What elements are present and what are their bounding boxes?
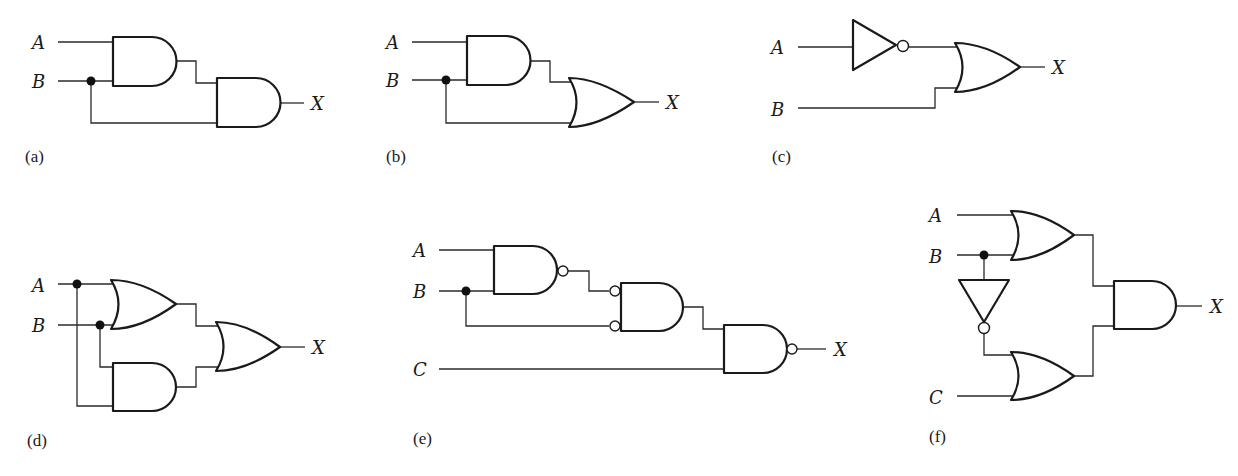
junction-dot (462, 287, 471, 296)
circuit-c (798, 20, 1045, 108)
or-gate (111, 280, 176, 329)
not-gate (959, 280, 1009, 322)
caption-d: (d) (27, 432, 47, 449)
input-label-c: C (413, 361, 427, 379)
input-label-b: B (32, 73, 45, 91)
logic-circuits-figure: A B X (a) A B X (b) A B X (c) A B X (d) … (0, 0, 1238, 476)
or-gate (569, 78, 634, 127)
circuit-e (439, 246, 826, 373)
junction-dot (73, 280, 82, 289)
or-gate (1011, 211, 1074, 260)
junction-dot (87, 77, 96, 86)
or-gate (1011, 352, 1074, 400)
inversion-bubble (558, 266, 568, 276)
output-label-x: X (666, 94, 679, 112)
circuit-b (412, 36, 659, 127)
input-label-a: A (386, 34, 399, 52)
junction-dot (96, 321, 105, 330)
input-label-b: B (32, 317, 45, 335)
output-label-x: X (834, 341, 847, 359)
and-gate (113, 37, 177, 86)
inversion-bubble (979, 323, 990, 334)
input-label-a: A (771, 39, 784, 57)
input-label-a: A (413, 242, 426, 260)
caption-c: (c) (772, 148, 791, 165)
and-gate (467, 36, 531, 85)
and-gate (113, 363, 176, 411)
or-gate (955, 43, 1020, 92)
junction-dot (442, 76, 451, 85)
circuit-a (58, 37, 304, 127)
inversion-bubble (610, 321, 620, 331)
nand-gate (724, 325, 787, 373)
circuit-f (957, 211, 1202, 400)
nand-gate (494, 246, 557, 294)
output-label-x: X (311, 95, 324, 113)
input-label-c: C (929, 389, 943, 407)
input-label-a: A (32, 34, 45, 52)
output-label-x: X (1052, 59, 1065, 77)
caption-a: (a) (25, 148, 44, 165)
input-label-a: A (929, 207, 942, 225)
circuit-d (58, 280, 305, 412)
junction-dot (980, 251, 989, 260)
output-label-x: X (312, 339, 325, 357)
and-gate (1114, 281, 1176, 329)
and-gate-inverted-inputs (621, 283, 683, 331)
not-gate (853, 20, 896, 70)
inversion-bubble (610, 286, 620, 296)
inversion-bubble (787, 344, 797, 354)
output-label-x: X (1210, 298, 1223, 316)
or-gate (216, 322, 280, 371)
inversion-bubble (898, 41, 909, 52)
input-label-a: A (32, 277, 45, 295)
caption-e: (e) (413, 430, 432, 447)
input-label-b: B (386, 72, 399, 90)
and-gate (217, 78, 281, 127)
caption-b: (b) (386, 148, 406, 165)
input-label-b: B (929, 248, 942, 266)
input-label-b: B (771, 101, 784, 119)
caption-f: (f) (929, 428, 946, 445)
input-label-b: B (413, 283, 426, 301)
